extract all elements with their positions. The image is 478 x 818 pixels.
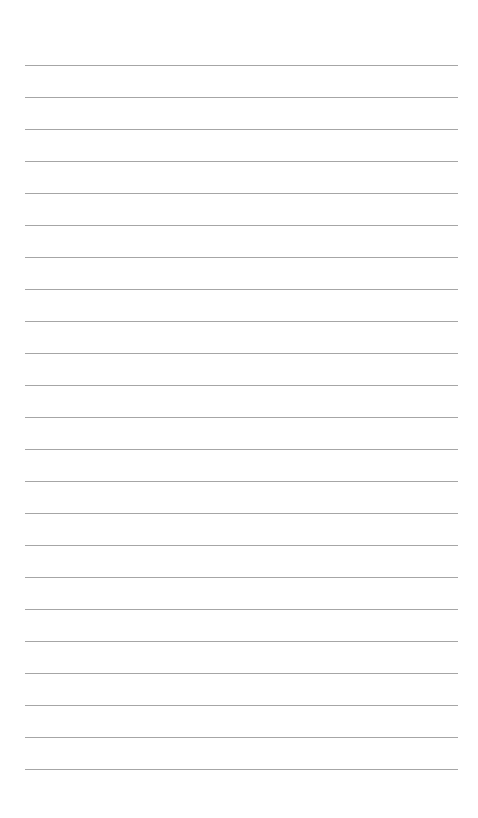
- ruled-line: [25, 641, 458, 642]
- ruled-line: [25, 97, 458, 98]
- ruled-line: [25, 737, 458, 738]
- ruled-line: [25, 545, 458, 546]
- ruled-line: [25, 609, 458, 610]
- ruled-line: [25, 321, 458, 322]
- ruled-line: [25, 577, 458, 578]
- ruled-line: [25, 289, 458, 290]
- ruled-line: [25, 705, 458, 706]
- ruled-line: [25, 449, 458, 450]
- ruled-line: [25, 769, 458, 770]
- ruled-line: [25, 417, 458, 418]
- ruled-line: [25, 225, 458, 226]
- ruled-line: [25, 129, 458, 130]
- ruled-line: [25, 353, 458, 354]
- ruled-line: [25, 385, 458, 386]
- ruled-line: [25, 161, 458, 162]
- ruled-line: [25, 193, 458, 194]
- ruled-line: [25, 257, 458, 258]
- ruled-line: [25, 481, 458, 482]
- lined-paper-page: [0, 0, 478, 818]
- ruled-line: [25, 513, 458, 514]
- ruled-line: [25, 673, 458, 674]
- ruled-line: [25, 65, 458, 66]
